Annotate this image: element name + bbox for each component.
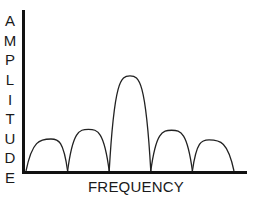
y-label-letter: E [5,170,15,185]
y-label-letter: M [4,33,17,48]
y-label-letter: T [5,111,14,126]
y-label-letter: I [8,92,12,107]
y-label-letter: P [5,52,15,67]
side-lobe-right-1 [151,130,193,171]
y-label-letter: A [5,13,15,28]
side-lobe-left-1 [68,129,110,171]
y-label-letter: D [5,150,16,165]
main-lobe [109,76,151,171]
y-label-letter: L [6,72,14,87]
x-axis-label: FREQUENCY [88,178,184,195]
side-lobe-left-2 [26,139,68,171]
spectrum-lobes [26,76,234,171]
spectrum-diagram [0,0,256,202]
y-label-letter: U [5,131,16,146]
side-lobe-right-2 [192,140,234,171]
y-axis-label: A M P L I T U D E [2,13,18,185]
